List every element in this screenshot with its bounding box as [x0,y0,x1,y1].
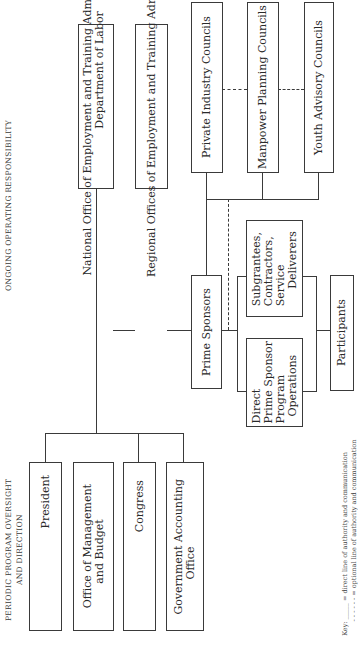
legend-key: Key: _____ = direct line of authority an… [332,470,359,640]
connector-youth [318,172,319,199]
connector-gao [183,433,184,462]
box-omb: Office of Management and Budget [73,462,114,631]
box-direct-prime-sponsor: Direct Prime Sponsor Program Operations [246,338,303,427]
box-subgrantees-label: Subgrantees, Contractors, Service Delive… [251,231,299,306]
box-national-office: National Office of Employment and Traini… [78,24,114,189]
box-gao-label: Government Accounting Office [173,479,197,615]
box-prime-sponsors: Prime Sponsors [191,275,222,389]
box-youth-advisory-label: Youth Advisory Councils [313,20,325,155]
box-congress-label: Congress [134,480,146,532]
box-youth-advisory-councils: Youth Advisory Councils [304,2,334,173]
direct-to-bracket [302,391,316,392]
box-subgrantees: Subgrantees, Contractors, Service Delive… [246,220,303,317]
box-participants: Participants [330,275,354,391]
box-president: President [29,462,62,631]
section-title-periodic: Periodic program oversight and direction [3,475,25,625]
connector-congress [138,433,139,462]
connector-president [45,433,46,462]
connector-regional-prime [167,330,191,331]
dashed-councils-delivery [228,199,229,330]
section-title-ongoing: Ongoing operating responsibility [3,105,14,305]
delivery-bracket-right [316,276,317,392]
box-national-office-label: National Office of Employment and Traini… [82,0,106,275]
box-private-industry-councils: Private Industry Councils [191,2,223,173]
key-direct-line: Key: _____ = direct line of authority an… [341,452,349,636]
connector-prime-councils [206,172,207,275]
box-direct-prime-label: Direct Prime Sponsor Program Operations [251,341,299,423]
subgrantees-to-bracket [302,276,316,277]
box-private-industry-label: Private Industry Councils [201,16,213,158]
oversight-bus [45,433,183,434]
box-participants-label: Participants [336,299,348,366]
box-regional-offices-label: Regional Offices of Employment and Train… [146,0,158,277]
dashed-manpower-youth [278,89,304,90]
box-president-label: President [40,475,52,528]
box-manpower-planning-councils: Manpower Planning Councils [247,2,279,173]
connector-manpower [262,172,263,199]
bracket-to-subgrantees [237,276,246,277]
box-regional-offices: Regional Offices of Employment and Train… [135,24,168,189]
connector-national-regional [113,330,135,331]
connector-prime-delivery [221,330,237,331]
box-congress: Congress [123,462,156,631]
bracket-to-participants [316,330,330,331]
box-prime-sponsors-label: Prime Sponsors [201,288,213,376]
bracket-to-direct [237,391,246,392]
delivery-bracket-left [237,276,238,392]
box-gao: Government Accounting Office [166,462,204,631]
councils-bus [206,199,319,200]
box-omb-label: Office of Management and Budget [82,484,106,608]
key-optional-line: - - - - - - = optional line of authority… [350,440,358,636]
dashed-private-manpower [222,89,247,90]
box-manpower-planning-label: Manpower Planning Councils [257,5,269,169]
